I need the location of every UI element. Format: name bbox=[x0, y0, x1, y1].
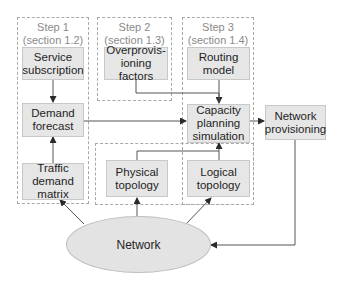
logical-topology-node: Logical topology bbox=[187, 160, 250, 197]
network-label: Network bbox=[116, 238, 160, 252]
routing-model-node: Routing model bbox=[187, 47, 250, 80]
capacity-planning-simulation-node: Capacity planning simulation bbox=[187, 104, 250, 143]
traffic-demand-matrix-node: Traffic demand matrix bbox=[22, 163, 84, 200]
network-ellipse: Network bbox=[66, 216, 211, 273]
network-provisioning-node: Network provisioning bbox=[265, 105, 326, 140]
overprovisioning-factors-node: Overprovis- ioning factors bbox=[104, 47, 168, 80]
service-subscription-node: Service subscription bbox=[22, 47, 84, 80]
demand-forecast-node: Demand forecast bbox=[22, 103, 84, 137]
physical-topology-node: Physical topology bbox=[106, 160, 168, 197]
